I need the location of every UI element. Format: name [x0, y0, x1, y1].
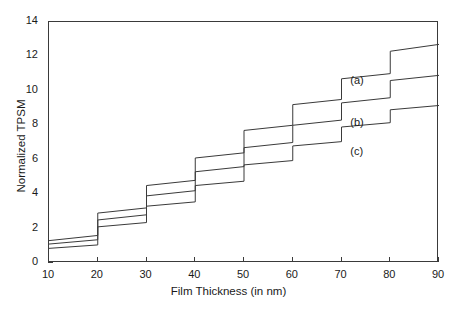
x-tick-label-90: 90 [418, 268, 457, 280]
y-tick-label-4: 4 [8, 186, 38, 198]
x-tick-mark-50 [243, 257, 244, 262]
y-axis-title: Normalized TPSM [15, 99, 27, 192]
x-tick-mark-40 [194, 257, 195, 262]
y-tick-label-8: 8 [8, 117, 38, 129]
x-tick-mark-70 [341, 257, 342, 262]
x-tick-mark-10 [48, 257, 49, 262]
x-tick-label-70: 70 [321, 268, 361, 280]
x-tick-label-40: 40 [174, 268, 214, 280]
curve-a [49, 44, 439, 240]
y-tick-label-0: 0 [8, 255, 38, 267]
curve-label-a: (a) [350, 74, 363, 86]
x-tick-label-20: 20 [77, 268, 117, 280]
curve-c [49, 105, 439, 248]
curve-label-b: (b) [350, 116, 363, 128]
x-tick-label-10: 10 [28, 268, 68, 280]
x-tick-mark-20 [97, 257, 98, 262]
x-tick-label-50: 50 [223, 268, 263, 280]
x-tick-mark-60 [292, 257, 293, 262]
y-tick-label-6: 6 [8, 152, 38, 164]
curve-label-c: (c) [350, 145, 363, 157]
x-axis-title: Film Thickness (in nm) [0, 285, 457, 297]
x-tick-label-60: 60 [272, 268, 312, 280]
y-tick-label-10: 10 [8, 83, 38, 95]
y-tick-label-12: 12 [8, 48, 38, 60]
y-tick-label-14: 14 [8, 14, 38, 26]
x-tick-label-30: 30 [126, 268, 166, 280]
plot-area [48, 21, 438, 262]
x-tick-mark-80 [389, 257, 390, 262]
x-tick-mark-90 [438, 257, 439, 262]
plot-curves [49, 22, 439, 263]
x-tick-mark-30 [146, 257, 147, 262]
x-tick-label-80: 80 [369, 268, 409, 280]
y-tick-label-2: 2 [8, 221, 38, 233]
chart-figure: Normalized TPSM 02468101214 102030405060… [0, 0, 457, 310]
curve-b [49, 75, 439, 244]
